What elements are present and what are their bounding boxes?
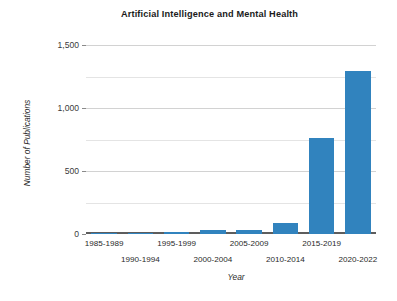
bar[interactable] (200, 230, 225, 234)
bar[interactable] (91, 233, 116, 234)
bar[interactable] (309, 138, 334, 234)
bar[interactable] (164, 232, 189, 234)
x-axis-tick-label: 1985-1989 (85, 239, 124, 248)
x-axis-tick-label: 1995-1999 (157, 239, 196, 248)
y-axis-tick-label: 1,000 (57, 103, 79, 113)
bar[interactable] (273, 223, 298, 234)
chart-title: Artificial Intelligence and Mental Healt… (0, 9, 397, 19)
y-axis-title: Number of Publications (22, 78, 32, 208)
gridline-major (86, 45, 376, 46)
x-axis-tick-label: 2000-2004 (194, 255, 233, 264)
y-axis-tick-label: 0 (74, 229, 79, 239)
gridline-minor (86, 77, 376, 78)
x-axis-tick-label: 2020-2022 (339, 255, 378, 264)
chart-figure: Artificial Intelligence and Mental Healt… (0, 0, 397, 301)
y-axis-tick-label: 500 (65, 166, 79, 176)
x-axis-tick-label: 2015-2019 (302, 239, 341, 248)
bar[interactable] (128, 233, 153, 235)
y-axis-tick-mark (82, 45, 86, 46)
x-axis-tick-label: 1990-1994 (121, 255, 160, 264)
y-axis-tick-mark (82, 171, 86, 172)
y-axis-tick-mark (82, 108, 86, 109)
x-axis-tick-label: 2010-2014 (266, 255, 305, 264)
bar[interactable] (345, 71, 370, 234)
gridline-major (86, 108, 376, 109)
y-axis-tick-label: 1,500 (57, 40, 79, 50)
y-axis-tick-mark (82, 234, 86, 235)
plot-area: 05001,0001,5001985-19891990-19941995-199… (86, 45, 376, 234)
x-axis-title: Year (86, 272, 386, 282)
x-axis-tick-label: 2005-2009 (230, 239, 269, 248)
bar[interactable] (236, 230, 261, 234)
